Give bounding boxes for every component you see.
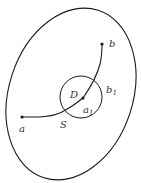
diagram-canvas: a b D S a1 b1 <box>0 0 141 183</box>
label-s: S <box>60 119 67 130</box>
label-b: b <box>109 38 115 49</box>
path-a1-to-b <box>83 44 102 98</box>
label-a: a <box>19 123 25 134</box>
point-a1 <box>81 96 84 99</box>
point-b <box>100 42 103 45</box>
path-a-to-a1 <box>22 98 83 117</box>
label-b1: b1 <box>106 84 117 97</box>
diagram: a b D S a1 b1 <box>0 0 141 183</box>
label-a1: a1 <box>83 104 93 117</box>
label-d: D <box>69 89 78 100</box>
label-a1-sub: 1 <box>89 109 93 117</box>
label-b1-sub: 1 <box>112 89 116 97</box>
disc-d-boundary <box>60 76 102 118</box>
point-a <box>20 115 23 118</box>
